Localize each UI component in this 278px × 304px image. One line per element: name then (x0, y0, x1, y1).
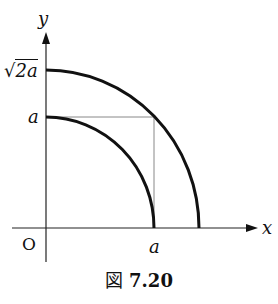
quarter-circles-diagram (0, 0, 278, 304)
caption-number: 7.20 (129, 270, 173, 291)
y-tick-sqrt2a: √2a (4, 60, 38, 81)
radical-sign: √ (4, 60, 15, 81)
x-tick-a: a (149, 238, 160, 256)
x-axis-label: x (262, 219, 272, 237)
caption-prefix: 図 (105, 270, 123, 291)
radicand: 2a (15, 59, 37, 81)
y-tick-a: a (28, 108, 39, 126)
origin-label: O (22, 236, 36, 253)
x-axis-arrow-icon (246, 224, 258, 232)
inner-arc (46, 117, 154, 228)
y-axis-label: y (38, 10, 48, 28)
figure-caption: 図7.20 (0, 266, 278, 292)
y-axis-arrow-icon (42, 32, 50, 44)
